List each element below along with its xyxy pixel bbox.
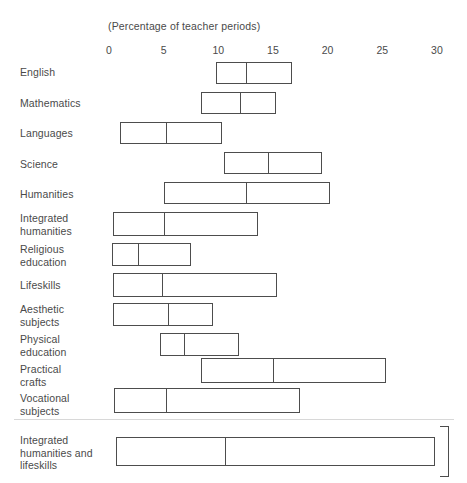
median-divider — [240, 93, 241, 113]
range-bar — [113, 303, 212, 326]
median-divider — [246, 63, 247, 83]
range-bar — [114, 388, 300, 413]
median-divider — [268, 153, 269, 173]
row-label: Languages — [20, 127, 73, 140]
row-label: Aesthetic subjects — [20, 303, 64, 328]
chart-rows: EnglishMathematicsLanguagesScienceHumani… — [0, 0, 467, 483]
row-label: Humanities — [20, 188, 74, 201]
range-bar — [120, 122, 222, 144]
group-separator-rule — [14, 419, 454, 420]
range-bar — [113, 212, 257, 236]
summary-bracket — [440, 426, 449, 477]
row-label: Vocational subjects — [20, 392, 69, 417]
median-divider — [162, 274, 163, 296]
range-bar — [116, 437, 435, 466]
range-bar — [201, 358, 386, 383]
median-divider — [164, 213, 165, 235]
row-label: Integrated humanities — [20, 212, 72, 237]
median-divider — [225, 438, 226, 465]
median-divider — [273, 359, 274, 382]
range-bar — [216, 62, 291, 84]
range-bar — [201, 92, 276, 114]
range-bar-chart: (Percentage of teacher periods) 05101520… — [0, 0, 467, 483]
row-label: English — [20, 66, 55, 79]
range-bar — [112, 243, 191, 266]
range-bar — [113, 273, 277, 297]
median-divider — [166, 123, 167, 143]
row-label: Physical education — [20, 333, 66, 358]
range-bar — [224, 152, 322, 174]
median-divider — [246, 183, 247, 203]
row-label: Lifeskills — [20, 279, 61, 292]
range-bar — [160, 333, 239, 356]
median-divider — [184, 334, 185, 355]
median-divider — [166, 389, 167, 412]
row-label: Mathematics — [20, 97, 81, 110]
row-label: Integrated humanities and lifeskills — [20, 434, 93, 472]
median-divider — [168, 304, 169, 325]
range-bar — [164, 182, 330, 204]
median-divider — [138, 244, 139, 265]
row-label: Science — [20, 158, 58, 171]
row-label: Religious education — [20, 243, 66, 268]
row-label: Practical crafts — [20, 363, 61, 388]
